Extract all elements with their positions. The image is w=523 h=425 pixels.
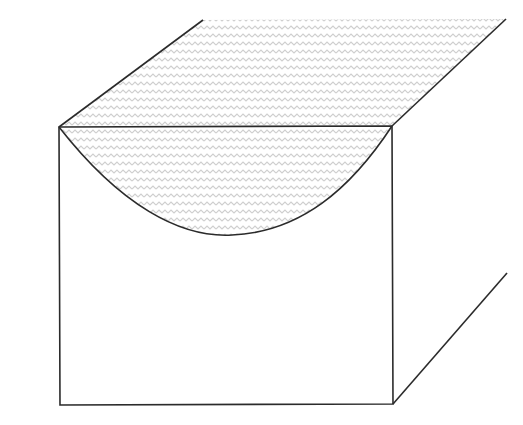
trough-svg [0, 0, 523, 425]
bottom-right-depth-edge [393, 273, 507, 404]
trough-diagram [0, 0, 523, 425]
top-surface-fill [59, 19, 506, 127]
